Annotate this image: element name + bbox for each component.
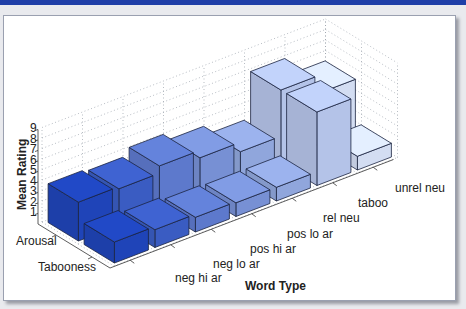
x-axis-title: Word Type (245, 279, 306, 293)
bars (48, 59, 391, 264)
y-axis-title: Mean Rating (15, 139, 29, 210)
category-label-neg-lo-ar: neg lo ar (213, 257, 260, 271)
category-label-pos-lo-ar: pos lo ar (287, 227, 333, 241)
row-label-tabooness: Tabooness (38, 260, 96, 274)
category-label-pos-hi-ar: pos hi ar (250, 242, 296, 256)
row-label-arousal: Arousal (16, 234, 57, 248)
category-label-rel-neu: rel neu (323, 211, 360, 225)
category-label-unrel-neu: unrel neu (395, 181, 445, 195)
y-tick: 9 (30, 121, 37, 135)
category-label-neg-hi-ar: neg hi ar (175, 271, 222, 285)
y-tick-labels: 1 2 3 4 5 6 7 8 9 (30, 121, 37, 219)
bar-chart-3d: Mean Rating Word Type Arousal Tabooness … (0, 0, 466, 309)
category-label-taboo: taboo (358, 196, 388, 210)
